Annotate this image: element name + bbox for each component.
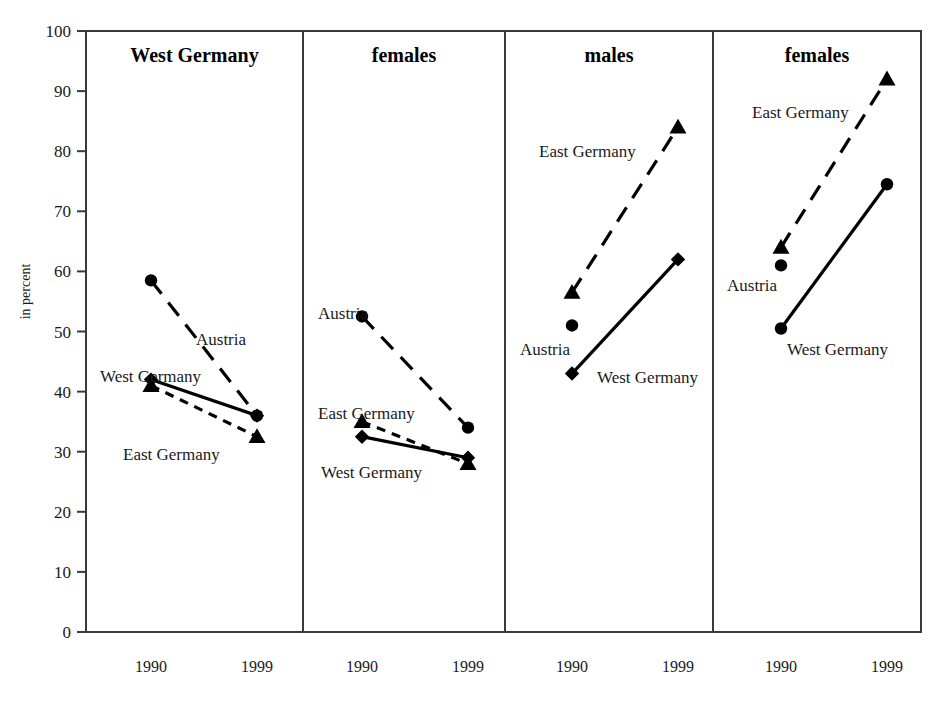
y-tick-label: 100 bbox=[46, 22, 72, 41]
data-series bbox=[143, 71, 896, 471]
series-label-austria: Austria bbox=[520, 340, 571, 359]
y-tick-label: 10 bbox=[54, 563, 71, 582]
y-axis-ticks: 0102030405060708090100 bbox=[46, 22, 87, 642]
y-tick-label: 40 bbox=[54, 383, 71, 402]
chart-figure: 0102030405060708090100 in percent 199019… bbox=[0, 0, 944, 704]
panel-titles: West Germanyfemalesmalesfemales bbox=[130, 44, 849, 67]
east-germany-triangle-marker bbox=[670, 119, 687, 134]
series-label-austria: Austria bbox=[196, 330, 247, 349]
series-annotations: AustriaWest GermanyEast GermanyAustriaEa… bbox=[100, 103, 889, 482]
x-tick-label: 1999 bbox=[452, 658, 484, 675]
east-germany-triangle-marker bbox=[564, 284, 581, 299]
series-austria bbox=[775, 259, 787, 271]
x-tick-label: 1990 bbox=[765, 658, 797, 675]
y-tick-label: 60 bbox=[54, 262, 71, 281]
austria-circle-marker bbox=[462, 421, 474, 433]
west-germany-diamond-marker bbox=[461, 451, 475, 465]
austria-circle-marker bbox=[566, 319, 578, 331]
line-west-germany bbox=[362, 437, 468, 458]
y-tick-label: 50 bbox=[54, 323, 71, 342]
panel-2-series bbox=[354, 310, 477, 470]
x-tick-label: 1999 bbox=[871, 658, 903, 675]
series-label-west-germany: West Germany bbox=[597, 368, 699, 387]
series-east-germany bbox=[773, 71, 896, 254]
line-west-germany bbox=[572, 259, 678, 373]
panel-title-3: males bbox=[585, 44, 634, 66]
series-label-east-germany: East Germany bbox=[123, 445, 220, 464]
series-west-germany bbox=[775, 178, 893, 335]
y-tick-label: 0 bbox=[63, 623, 72, 642]
series-label-east-germany: East Germany bbox=[752, 103, 849, 122]
series-austria bbox=[566, 319, 578, 331]
panel-1-series bbox=[143, 274, 266, 443]
series-label-austria: Austria bbox=[318, 304, 369, 323]
east-germany-triangle-marker bbox=[879, 71, 896, 86]
west-germany-diamond-marker bbox=[355, 429, 369, 443]
y-tick-label: 80 bbox=[54, 142, 71, 161]
west-germany-diamond-marker bbox=[250, 408, 264, 422]
series-label-west-germany: West Germany bbox=[787, 340, 889, 359]
line-east-germany bbox=[362, 422, 468, 464]
series-east-germany bbox=[143, 377, 266, 443]
series-label-austria: Austria bbox=[727, 276, 778, 295]
austria-circle-marker bbox=[775, 259, 787, 271]
y-tick-label: 70 bbox=[54, 202, 71, 221]
west-germany-circle-marker bbox=[881, 178, 893, 190]
x-tick-label: 1990 bbox=[135, 658, 167, 675]
y-tick-label: 20 bbox=[54, 503, 71, 522]
x-tick-label: 1990 bbox=[346, 658, 378, 675]
x-tick-label: 1990 bbox=[556, 658, 588, 675]
panel-title-2: females bbox=[372, 44, 437, 66]
panel-title-1: West Germany bbox=[130, 44, 258, 67]
y-axis-title: in percent bbox=[18, 264, 33, 320]
y-tick-label: 30 bbox=[54, 443, 71, 462]
panel-title-4: females bbox=[785, 44, 850, 66]
series-label-west-germany: West Germany bbox=[100, 367, 202, 386]
austria-circle-marker bbox=[145, 274, 157, 286]
east-germany-triangle-marker bbox=[773, 239, 790, 254]
line-west-germany bbox=[781, 184, 887, 328]
x-tick-label: 1999 bbox=[241, 658, 273, 675]
series-label-east-germany: East Germany bbox=[539, 142, 636, 161]
east-germany-triangle-marker bbox=[249, 428, 266, 443]
series-west-germany bbox=[565, 252, 685, 381]
chart-canvas: 0102030405060708090100 in percent 199019… bbox=[0, 0, 944, 704]
x-tick-label: 1999 bbox=[662, 658, 694, 675]
west-germany-circle-marker bbox=[775, 322, 787, 334]
y-tick-label: 90 bbox=[54, 82, 71, 101]
y-axis-title-text: in percent bbox=[18, 264, 33, 320]
x-axis-ticks: 19901999199019991990199919901999 bbox=[135, 658, 903, 675]
series-label-east-germany: East Germany bbox=[318, 404, 415, 423]
series-label-west-germany: West Germany bbox=[321, 463, 423, 482]
